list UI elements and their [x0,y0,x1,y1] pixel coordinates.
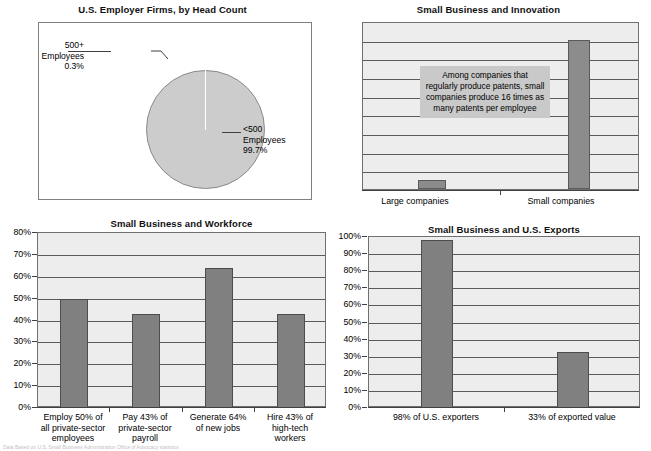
pie-label-small-line1: <500 [243,124,313,135]
y-axis-tick [362,339,367,340]
pie-label-small-firms: <500 Employees 99.7% [243,124,313,156]
x-axis-category-line: 33% of exported value [504,412,640,423]
y-axis-tick-label: 60% [0,271,31,281]
y-axis-tick [362,373,367,374]
y-axis-tick-label: 70% [326,282,361,292]
innovation-bar-panel: Small Business and Innovation Among comp… [326,4,651,214]
y-axis-tick [32,363,37,364]
x-axis-category-label: 98% of U.S. exporters [368,412,504,423]
pie-label-small-line2: Employees [243,135,313,146]
y-axis-tick [32,407,37,408]
innovation-chart-title: Small Business and Innovation [326,4,651,15]
y-axis-tick [362,287,367,288]
x-axis-category-line: payroll [109,433,181,444]
y-axis-tick-label: 10% [326,385,361,395]
gridline [369,271,639,272]
y-axis-tick [32,385,37,386]
x-axis-category-label: Pay 43% ofprivate-sectorpayroll [109,412,181,444]
y-axis-tick [32,276,37,277]
workforce-plot-area [37,232,326,407]
exports-bar-panel: Small Business and U.S. Exports 0%10%20%… [326,214,651,451]
x-axis-category-line: private-sector [109,423,181,434]
innovation-bar-large-companies [418,180,446,189]
innovation-gridline [363,172,638,173]
innovation-gridline [363,154,638,155]
y-axis-tick-label: 30% [326,351,361,361]
y-axis-tick [362,270,367,271]
x-axis-category-line: of new jobs [182,423,254,434]
innovation-gridline [363,135,638,136]
x-axis-category-line: 98% of U.S. exporters [368,412,504,423]
y-axis-tick-label: 60% [326,299,361,309]
x-axis-category-line: all private-sector [37,423,109,434]
pie-label-small-line3: 99.7% [243,145,313,156]
y-axis-tick [362,236,367,237]
pie-label-large-line2: Employees [24,51,84,62]
x-axis-category-line: Generate 64% [182,412,254,423]
bar [421,240,453,408]
pie-label-large-line1: 500+ [24,40,84,51]
y-axis-tick [32,341,37,342]
x-axis-category-line: high-tech [254,423,326,434]
x-axis-category-line: Hire 43% of [254,412,326,423]
gridline [369,323,639,324]
y-axis-tick-label: 0% [0,402,31,412]
gridline [369,254,639,255]
innovation-category-label-large: Large companies [362,196,468,206]
y-axis-tick-label: 80% [0,227,31,237]
y-axis-tick-label: 10% [0,380,31,390]
pie-slice-large-firms [205,70,206,130]
pie-leader-elbow-large [151,44,169,60]
bar [132,314,160,408]
x-axis-category-line: employees [37,433,109,444]
gridline [369,374,639,375]
gridline [38,255,325,256]
bar [557,352,589,408]
pie-chart-title: U.S. Employer Firms, by Head Count [0,4,325,15]
innovation-x-tick [500,190,501,195]
x-axis-category-label: Hire 43% ofhigh-techworkers [254,412,326,444]
y-axis-tick [32,320,37,321]
innovation-bar-small-companies [568,40,590,189]
exports-plot-area [368,236,640,407]
y-axis-tick [362,322,367,323]
x-axis-category-line: Pay 43% of [109,412,181,423]
pie-label-large-line3: 0.3% [24,61,84,72]
workforce-chart-title: Small Business and Workforce [37,218,326,229]
gridline [369,357,639,358]
gridline [38,277,325,278]
x-axis-category-line: workers [254,433,326,444]
bar [205,268,233,408]
y-axis-tick [32,298,37,299]
innovation-gridline [363,60,638,61]
gridline [369,340,639,341]
y-axis-tick [362,356,367,357]
y-axis-tick-label: 50% [0,293,31,303]
bar [60,299,88,408]
bar [277,314,305,408]
x-axis-category-line: Employ 50% of [37,412,109,423]
y-axis-tick [362,390,367,391]
y-axis-tick [362,253,367,254]
y-axis-tick-label: 90% [326,248,361,258]
y-axis-tick-label: 30% [0,336,31,346]
y-axis-tick-label: 40% [326,334,361,344]
y-axis-tick [362,407,367,408]
y-axis-tick [362,304,367,305]
figure-footnote: Data Based on U.S. Small Business Admini… [3,444,643,450]
workforce-bar-panel: Small Business and Workforce 0%10%20%30%… [0,214,326,451]
y-axis-tick-label: 80% [326,265,361,275]
y-axis-tick-label: 100% [326,231,361,241]
y-axis-tick-label: 0% [326,402,361,412]
y-axis-tick-label: 20% [0,358,31,368]
y-axis-tick-label: 40% [0,315,31,325]
innovation-category-label-small: Small companies [506,196,616,206]
y-axis-tick-label: 50% [326,317,361,327]
y-axis-tick-label: 20% [326,368,361,378]
gridline [369,305,639,306]
gridline [369,288,639,289]
innovation-callout-box: Among companies that regularly produce p… [420,66,550,118]
x-axis-category-label: Generate 64%of new jobs [182,412,254,433]
x-axis-category-label: Employ 50% ofall private-sectoremployees [37,412,109,444]
x-axis-category-label: 33% of exported value [504,412,640,423]
